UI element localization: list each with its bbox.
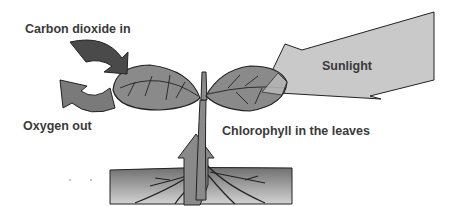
sunlight-label: Sunlight xyxy=(322,59,373,73)
carbon-dioxide-arrow xyxy=(70,40,128,74)
stem xyxy=(196,100,206,200)
speck-dot xyxy=(90,179,91,180)
sunlight-arrow xyxy=(262,12,434,99)
oxygen-label: Oxygen out xyxy=(23,119,93,133)
speck-dot xyxy=(69,179,70,180)
carbon-dioxide-label: Carbon dioxide in xyxy=(25,22,131,36)
chlorophyll-label: Chlorophyll in the leaves xyxy=(222,124,370,138)
photosynthesis-diagram: Carbon dioxide in Oxygen out Sunlight Ch… xyxy=(0,0,450,206)
oxygen-arrow xyxy=(60,80,115,112)
